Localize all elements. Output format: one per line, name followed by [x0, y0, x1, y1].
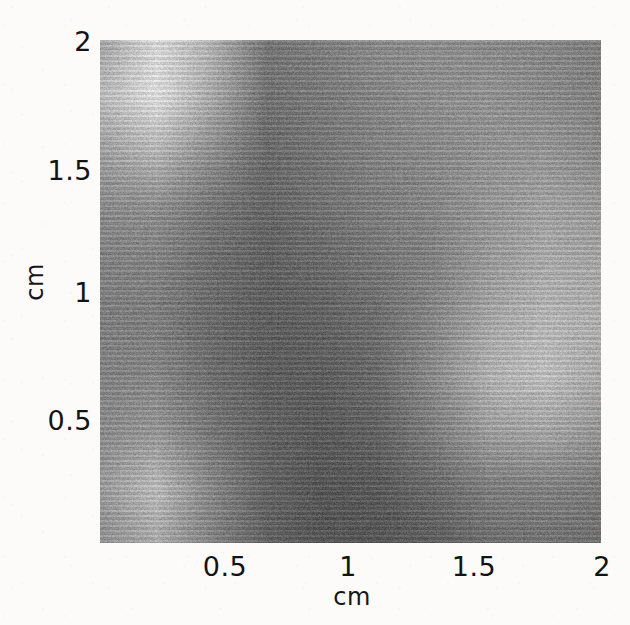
x-tick-label-0-5: 0.5 — [185, 551, 265, 582]
x-tick-label-1-5: 1.5 — [434, 551, 514, 582]
y-tick-label-2: 2 — [0, 26, 92, 57]
x-axis-title: cm — [312, 583, 392, 611]
film-grain-texture — [100, 40, 601, 543]
x-tick-label-1: 1 — [308, 551, 388, 582]
y-tick-label-1-5: 1.5 — [0, 155, 92, 186]
x-tick-label-2: 2 — [562, 551, 630, 582]
y-tick-label-0-5: 0.5 — [0, 405, 92, 436]
y-tick-label-1: 1 — [0, 277, 92, 308]
heatmap-plot-area[interactable] — [100, 40, 601, 543]
heatmap-figure: cm 2 1.5 1 0.5 0.5 1 1.5 2 cm — [0, 0, 630, 625]
